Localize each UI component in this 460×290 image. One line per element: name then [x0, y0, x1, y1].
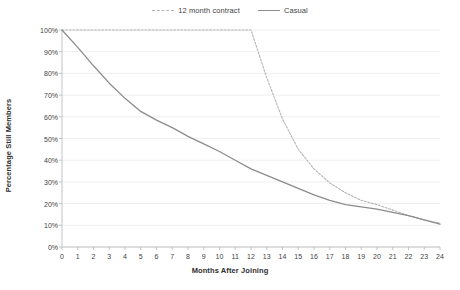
gridlines	[62, 30, 440, 247]
retention-line-chart: 12 month contract Casual Percentage Stil…	[0, 0, 460, 290]
data-series-layer	[62, 30, 440, 224]
series-line-casual	[62, 30, 440, 224]
series-line-contract	[62, 30, 440, 223]
axis-lines	[59, 30, 440, 250]
plot-area	[0, 0, 460, 290]
